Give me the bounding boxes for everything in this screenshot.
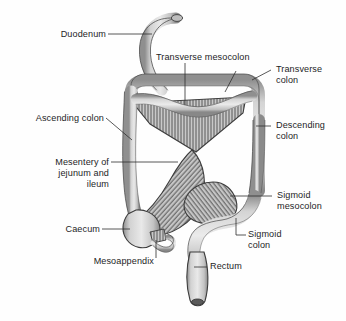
anatomy-figure: Duodenum Transverse mesocolon Transverse… <box>0 0 346 321</box>
label-sigmoid-mesocolon-line1: Sigmoid <box>277 190 345 201</box>
label-sigmoid-colon-line2: colon <box>248 240 314 251</box>
label-rectum: Rectum <box>210 261 276 272</box>
leader-transverse-colon <box>252 70 271 80</box>
label-duodenum: Duodenum <box>20 29 106 40</box>
rectum-shape <box>187 252 208 306</box>
label-mesentery-line1: Mesentery of <box>14 157 109 168</box>
label-descending-colon-line2: colon <box>276 131 346 142</box>
label-sigmoid-mesocolon-line2: mesocolon <box>277 201 345 212</box>
label-ascending-colon: Ascending colon <box>12 113 104 124</box>
label-descending-colon-line1: Descending <box>276 120 346 131</box>
label-transverse-colon-line2: colon <box>276 75 346 86</box>
label-transverse-colon-line1: Transverse <box>276 64 346 75</box>
descending-colon-shape <box>249 120 265 193</box>
label-mesoappendix: Mesoappendix <box>64 256 154 267</box>
label-mesentery-line3: ileum <box>14 179 109 190</box>
label-sigmoid-colon-line1: Sigmoid <box>248 229 314 240</box>
label-transverse-mesocolon: Transverse mesocolon <box>156 52 286 63</box>
label-caecum: Caecum <box>30 224 100 235</box>
label-mesentery-line2: jejunum and <box>14 168 109 179</box>
